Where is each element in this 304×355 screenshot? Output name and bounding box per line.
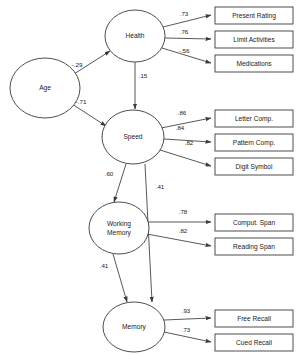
- coefficient-wm-memory: .41: [100, 262, 109, 269]
- observed-variable-letter_comp: Letter Comp.: [215, 110, 293, 127]
- sem-diagram-canvas: Present RatingLimit ActivitiesMedication…: [0, 0, 304, 355]
- observed-variable-pattern_comp: Pattern Comp.: [215, 134, 293, 151]
- sem-path-diagram: Present RatingLimit ActivitiesMedication…: [0, 0, 304, 355]
- observed-variable-cued_recall: Cued Recall: [215, 334, 293, 351]
- structural-path-speed-wm: [114, 164, 126, 202]
- observed-variable-free_recall: Free Recall: [215, 310, 293, 327]
- observed-label-free_recall: Free Recall: [237, 315, 271, 322]
- coefficient-speed-letter: .86: [178, 109, 187, 116]
- structural-path-wm-memory: [113, 254, 127, 302]
- observed-variable-comput_span: Comput. Span: [215, 214, 293, 231]
- structural-path-age-speed: [72, 104, 106, 126]
- latent-label-health: Health: [125, 32, 144, 39]
- measurement-path-memory-cued: [164, 332, 211, 342]
- latent-label-speed: Speed: [123, 133, 142, 141]
- latent-variable-health: Health: [105, 10, 165, 62]
- observed-label-digit_symbol: Digit Symbol: [235, 163, 273, 171]
- coefficient-health-present: .73: [180, 10, 189, 17]
- latent-variable-wm: WorkingMemory: [89, 202, 149, 254]
- latent-variable-memory: Memory: [103, 302, 165, 352]
- measurement-path-speed-letter: [161, 118, 211, 128]
- measurement-path-wm-reading: [147, 234, 211, 246]
- measurement-path-health-limit: [165, 38, 211, 39]
- observed-variable-present_rating: Present Rating: [215, 7, 293, 24]
- latent-label-memory: Memory: [122, 323, 147, 331]
- latent-label-age: Age: [39, 84, 51, 92]
- observed-variable-group: Present RatingLimit ActivitiesMedication…: [215, 7, 293, 351]
- observed-label-medications: Medications: [236, 60, 272, 67]
- observed-label-cued_recall: Cued Recall: [236, 339, 272, 346]
- coefficient-wm-comput: .78: [179, 208, 188, 215]
- observed-label-comput_span: Comput. Span: [233, 219, 275, 227]
- coefficient-health-limit: .76: [180, 28, 189, 35]
- coefficient-speed-wm: .60: [105, 170, 114, 177]
- observed-variable-digit_symbol: Digit Symbol: [215, 158, 293, 175]
- measurement-path-group: [147, 15, 211, 342]
- latent-label-wm: Working: [107, 220, 131, 228]
- coefficient-wm-reading: .82: [179, 227, 188, 234]
- coefficient-speed-pattern: .84: [176, 124, 185, 131]
- measurement-path-health-present: [163, 15, 211, 27]
- observed-label-reading_span: Reading Span: [233, 243, 275, 251]
- coefficient-speed-memory: .41: [156, 183, 165, 190]
- observed-label-present_rating: Present Rating: [232, 12, 276, 20]
- latent-label-wm-line2: Memory: [107, 229, 132, 237]
- observed-variable-limit_act: Limit Activities: [215, 31, 293, 48]
- observed-label-limit_act: Limit Activities: [233, 36, 275, 43]
- coefficient-age-speed: -.71: [76, 98, 87, 105]
- measurement-path-speed-digit: [160, 150, 211, 166]
- observed-label-letter_comp: Letter Comp.: [235, 115, 273, 123]
- latent-variable-age: Age: [10, 58, 80, 118]
- coefficient-health-speed: .15: [139, 72, 148, 79]
- observed-variable-reading_span: Reading Span: [215, 238, 293, 255]
- coefficient-health-meds: -.56: [179, 47, 190, 54]
- coefficient-age-health: -.29: [72, 61, 83, 68]
- latent-variable-group: AgeHealthSpeedWorkingMemoryMemory: [10, 10, 165, 352]
- coefficient-speed-digit: .82: [185, 139, 194, 146]
- coefficient-memory-free: .93: [182, 307, 191, 314]
- observed-label-pattern_comp: Pattern Comp.: [233, 139, 276, 147]
- measurement-path-memory-free: [164, 318, 211, 320]
- observed-variable-medications: Medications: [215, 55, 293, 72]
- latent-variable-speed: Speed: [102, 110, 164, 164]
- coefficient-memory-cued: .73: [182, 326, 191, 333]
